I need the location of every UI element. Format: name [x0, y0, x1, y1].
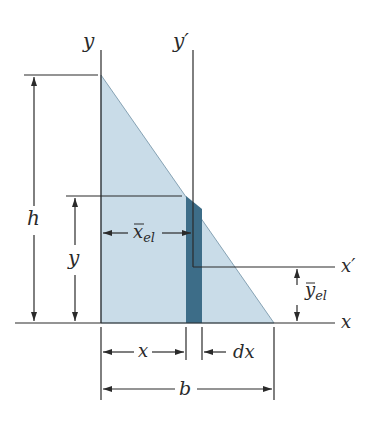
x-axis-label: x	[341, 311, 351, 332]
dx-label: dx	[233, 341, 255, 362]
x-prime-axis-label: x′	[341, 255, 355, 276]
h-label: h	[27, 206, 40, 230]
strip-y-label: y	[67, 246, 80, 270]
x-distance-label: x	[138, 340, 148, 361]
triangle-centroid-diagram: y y′ x x′ h y xel yel x dx b	[0, 0, 380, 426]
b-label: b	[179, 377, 191, 399]
differential-strip	[186, 196, 202, 323]
y-axis-label: y	[82, 29, 95, 53]
y-prime-axis-label: y′	[172, 29, 189, 53]
y-el-label: yel	[304, 279, 327, 303]
